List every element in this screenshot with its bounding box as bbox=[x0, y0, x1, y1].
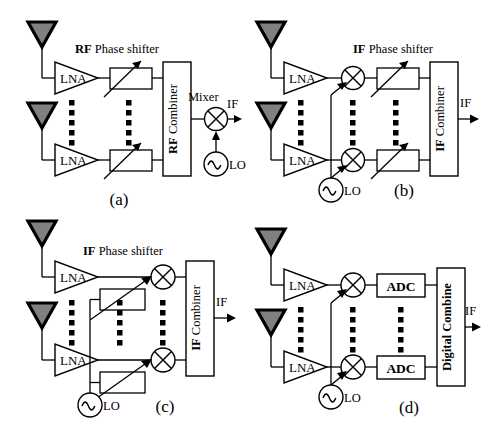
lna-label-bottom: LNA bbox=[289, 153, 316, 168]
lna-label-bottom: LNA bbox=[60, 353, 87, 368]
mixer-icon-bottom bbox=[341, 355, 365, 379]
combiner-label-bold: Digital Combine bbox=[440, 283, 454, 371]
combiner-label-rest: Combiner bbox=[166, 83, 180, 137]
combiner-label-rest: Combiner bbox=[433, 85, 447, 139]
output-label-if: IF bbox=[227, 97, 238, 111]
antenna-icon bbox=[257, 229, 285, 285]
phase-shifter-title-rest: Phase shifter bbox=[92, 42, 160, 56]
lna-label-top: LNA bbox=[60, 270, 87, 285]
panel-caption-a: (a) bbox=[110, 190, 129, 209]
mixer-icon bbox=[205, 108, 228, 131]
adc-label-bottom: ADC bbox=[386, 361, 415, 376]
antenna-icon bbox=[28, 22, 56, 78]
lna-label-top: LNA bbox=[289, 71, 316, 86]
ellipsis-dots bbox=[69, 100, 132, 146]
output-label-if: IF bbox=[460, 96, 471, 110]
phase-shifter-title-rest: Phase shifter bbox=[366, 42, 434, 56]
lo-source-icon bbox=[204, 152, 228, 176]
mixer-icon-top bbox=[151, 265, 175, 289]
svg-text:IF Phase shifter: IF Phase shifter bbox=[83, 244, 164, 258]
lo-label: LO bbox=[103, 399, 120, 413]
svg-text:RF Phase shifter: RF Phase shifter bbox=[75, 42, 160, 56]
ellipsis-dots bbox=[298, 100, 399, 146]
svg-text:RF Combiner: RF Combiner bbox=[166, 83, 180, 154]
mixer-icon-bottom bbox=[151, 348, 175, 372]
panel-caption-c: (c) bbox=[156, 397, 175, 416]
combiner-label-bold: IF bbox=[189, 338, 203, 351]
panel-a: LNA RF Phase shifter bbox=[0, 0, 242, 219]
phase-shifter-title-bold: IF bbox=[83, 244, 96, 258]
panel-c: LNA IF Phase shifter bbox=[0, 215, 242, 438]
mixer-icon-top bbox=[341, 273, 365, 297]
lo-label: LO bbox=[344, 184, 361, 198]
phase-shifter-bottom bbox=[371, 143, 419, 179]
antenna-icon bbox=[28, 103, 56, 160]
antenna-icon bbox=[28, 303, 56, 360]
ellipsis-dots bbox=[298, 307, 404, 353]
panel-caption-d: (d) bbox=[399, 398, 419, 417]
output-label-if: IF bbox=[465, 304, 476, 318]
panel-caption-b: (b) bbox=[394, 181, 414, 200]
antenna-icon bbox=[257, 22, 285, 78]
phase-shifter-title-rest: Phase shifter bbox=[96, 244, 164, 258]
lo-source-icon bbox=[78, 393, 102, 417]
mixer-label: Mixer bbox=[188, 90, 219, 104]
combiner-label-rest: Combiner bbox=[189, 284, 203, 338]
antenna-icon bbox=[28, 221, 56, 277]
lna-label-bottom: LNA bbox=[60, 153, 87, 168]
lna-label-top: LNA bbox=[289, 278, 316, 293]
combiner-label-bold: IF bbox=[433, 139, 447, 152]
phase-shifter-bottom bbox=[104, 143, 152, 179]
output-label-if: IF bbox=[216, 295, 227, 309]
phase-shifter-top bbox=[104, 61, 152, 97]
svg-text:IF Phase shifter: IF Phase shifter bbox=[353, 42, 434, 56]
combiner-label-bold: RF bbox=[166, 137, 180, 154]
lna-label-top: LNA bbox=[60, 71, 87, 86]
svg-text:IF Combiner: IF Combiner bbox=[189, 284, 203, 350]
svg-text:IF Combiner: IF Combiner bbox=[433, 85, 447, 151]
lo-source-icon bbox=[319, 178, 343, 202]
mixer-icon-top bbox=[342, 67, 365, 90]
phase-shifter-title-bold: RF bbox=[75, 42, 92, 56]
lo-source-icon bbox=[319, 385, 343, 409]
lo-label: LO bbox=[344, 391, 361, 405]
antenna-icon bbox=[257, 310, 285, 367]
antenna-icon bbox=[257, 103, 285, 160]
adc-label-top: ADC bbox=[386, 279, 415, 294]
phase-shifter-title-bold: IF bbox=[353, 42, 366, 56]
panel-b: LNA IF Phase shifter bbox=[241, 0, 483, 219]
phase-shifter-top bbox=[371, 61, 419, 97]
figure-four-beamforming-architectures: LNA RF Phase shifter bbox=[0, 0, 483, 438]
lna-label-bottom: LNA bbox=[289, 360, 316, 375]
svg-text:Digital Combine: Digital Combine bbox=[440, 283, 454, 371]
panel-d: LNA ADC LNA bbox=[241, 215, 483, 438]
